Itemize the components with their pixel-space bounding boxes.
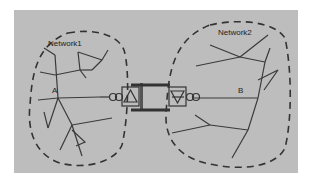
node-a-label: A [52, 86, 57, 95]
network1-label: Network1 [48, 39, 82, 48]
node-b-label: B [238, 86, 243, 95]
network2-lines [172, 35, 278, 158]
network2-label: Network2 [218, 28, 252, 37]
network-diagram [0, 0, 312, 188]
network2-boundary [166, 22, 290, 168]
triangle-up-icon [124, 90, 137, 102]
network1-lines [38, 48, 112, 156]
bridge [100, 83, 200, 110]
